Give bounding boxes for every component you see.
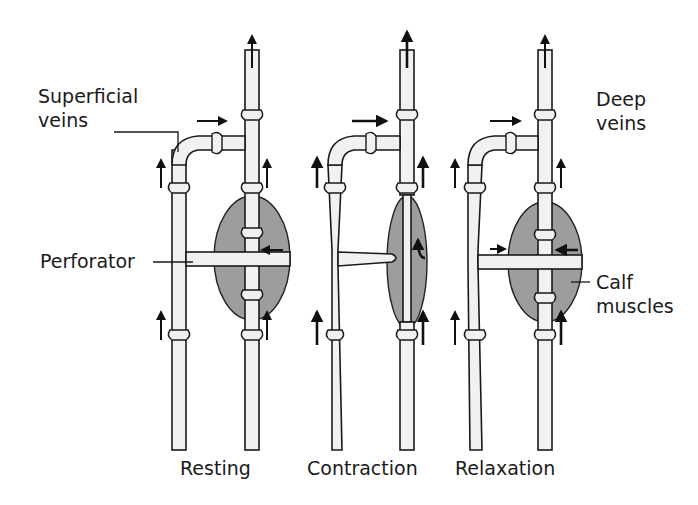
superficial-junction (172, 136, 245, 165)
deep-veins-label: Deep veins (596, 87, 646, 135)
panel-label-relaxation: Relaxation (455, 456, 555, 480)
calf-muscles-label: Calf muscles (596, 270, 674, 318)
perforator-vein (478, 255, 582, 269)
perforator-label: Perforator (40, 249, 135, 273)
panel-contraction (317, 32, 427, 450)
superficial-vein (328, 165, 342, 450)
label-line: Calf (596, 270, 674, 294)
label-line: Deep (596, 87, 646, 111)
superficial-junction (328, 136, 400, 165)
superficial-veins-label: Superficial veins (38, 84, 138, 132)
label-line: veins (596, 111, 646, 135)
superficial-junction (468, 136, 538, 165)
superficial-veins-leader (114, 132, 178, 152)
superficial-vein (468, 165, 482, 450)
superficial-vein (172, 150, 186, 450)
panel-label-resting: Resting (180, 456, 251, 480)
panel-relaxation (455, 36, 582, 450)
deep-vein (400, 50, 414, 195)
panel-label-contraction: Contraction (307, 456, 418, 480)
label-line: veins (38, 108, 138, 132)
perforator-vein (186, 252, 290, 266)
panel-resting (161, 36, 290, 450)
deep-vein-compressed (403, 195, 411, 322)
label-line: Superficial (38, 84, 138, 108)
label-line: muscles (596, 294, 674, 318)
deep-vein-lower (400, 322, 414, 450)
